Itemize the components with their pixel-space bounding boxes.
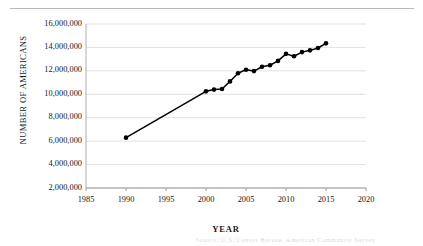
figure: NUMBER OF AMERICANS 2,000,0004,000,0006,… xyxy=(0,0,423,246)
data-point-marker xyxy=(308,48,313,53)
data-point-marker xyxy=(124,135,129,140)
figure-caption: Source: U.S. Census Bureau, American Com… xyxy=(196,236,421,243)
data-line xyxy=(126,43,326,137)
data-point-marker xyxy=(284,52,289,57)
data-point-marker xyxy=(300,50,305,55)
data-point-marker xyxy=(268,63,273,68)
data-point-marker xyxy=(204,89,209,94)
data-point-marker xyxy=(244,67,249,72)
data-point-marker xyxy=(316,46,321,51)
data-point-marker xyxy=(212,87,217,92)
x-tick-label: 2015 xyxy=(306,195,346,204)
x-axis-title: YEAR xyxy=(86,224,366,234)
x-tick-label: 1985 xyxy=(66,195,106,204)
data-point-marker xyxy=(260,64,265,69)
x-tick-label: 1995 xyxy=(146,195,186,204)
x-tick-label: 2020 xyxy=(346,195,386,204)
data-point-marker xyxy=(228,79,233,84)
data-point-marker xyxy=(252,69,257,74)
data-point-marker xyxy=(276,59,281,64)
x-tick-label: 2010 xyxy=(266,195,306,204)
data-point-marker xyxy=(236,71,241,76)
data-point-marker xyxy=(220,87,225,92)
x-tick-label: 2000 xyxy=(186,195,226,204)
plot-area xyxy=(0,0,423,246)
x-tick-label: 1990 xyxy=(106,195,146,204)
x-tick-label: 2005 xyxy=(226,195,266,204)
data-point-marker xyxy=(292,54,297,59)
data-point-marker xyxy=(324,41,329,46)
